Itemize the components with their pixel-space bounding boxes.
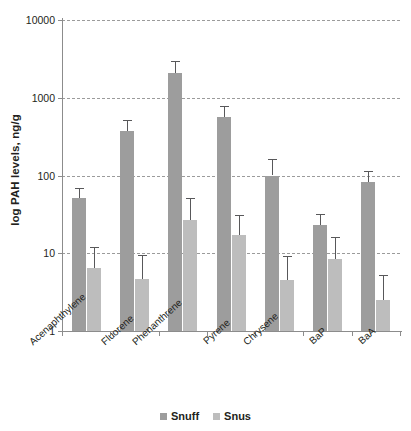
error-bar-cap xyxy=(283,256,292,257)
legend-label: Snuff xyxy=(171,410,199,422)
error-bar xyxy=(320,214,321,225)
error-bar-cap xyxy=(90,247,99,248)
x-axis-tick xyxy=(303,331,304,336)
error-bar-cap xyxy=(316,214,325,215)
y-axis-tick xyxy=(58,98,63,99)
bar-snuff-pyrene xyxy=(217,117,231,331)
error-bar xyxy=(335,237,336,258)
bar-snus-fluorene xyxy=(135,279,149,331)
error-bar-cap xyxy=(235,215,244,216)
y-axis-tick xyxy=(58,20,63,21)
y-axis-tick-label: 10 xyxy=(43,247,55,259)
y-axis-tick xyxy=(58,176,63,177)
error-bar-cap xyxy=(138,255,147,256)
legend-item-snus[interactable]: Snus xyxy=(213,410,251,422)
error-bar-cap xyxy=(364,171,373,172)
gridline xyxy=(62,176,400,177)
error-bar-cap xyxy=(186,198,195,199)
gridline xyxy=(62,20,400,21)
bar-snuff-acenaphthylene xyxy=(72,198,86,331)
bar-snuff-phenanthrene xyxy=(168,73,182,331)
bar-snus-pyrene xyxy=(232,235,246,331)
error-bar-cap xyxy=(220,106,229,107)
error-bar xyxy=(287,256,288,281)
error-bar-cap xyxy=(379,275,388,276)
error-bar-cap xyxy=(268,159,277,160)
legend-swatch-icon xyxy=(213,413,220,420)
error-bar xyxy=(272,159,273,176)
error-bar-cap xyxy=(331,237,340,238)
bar-snuff-bap xyxy=(313,225,327,331)
x-axis-tick xyxy=(159,331,160,336)
error-bar xyxy=(239,215,240,235)
y-axis-tick xyxy=(58,253,63,254)
y-axis-title: log PAH levels, ng/g xyxy=(4,0,26,340)
x-axis-tick xyxy=(207,331,208,336)
plot-area: 100001000100101 xyxy=(62,20,400,331)
error-bar xyxy=(127,120,128,131)
error-bar xyxy=(79,188,80,198)
x-axis-tick xyxy=(255,331,256,336)
error-bar xyxy=(383,275,384,300)
chart-legend: SnuffSnus xyxy=(0,410,411,422)
x-axis-tick xyxy=(62,331,63,336)
bar-snus-baa xyxy=(376,300,390,331)
error-bar xyxy=(142,255,143,279)
y-axis-title-text: log PAH levels, ng/g xyxy=(9,114,21,226)
bar-snuff-baa xyxy=(361,182,375,331)
gridline xyxy=(62,98,400,99)
error-bar xyxy=(190,198,191,220)
pah-levels-bar-chart: log PAH levels, ng/g 100001000100101 Ace… xyxy=(0,0,411,431)
error-bar-cap xyxy=(171,61,180,62)
legend-item-snuff[interactable]: Snuff xyxy=(160,410,199,422)
error-bar xyxy=(175,61,176,73)
error-bar xyxy=(94,247,95,268)
x-axis-tick xyxy=(110,331,111,336)
bar-snuff-chrysene xyxy=(265,176,279,332)
bar-snus-bap xyxy=(328,259,342,331)
bar-snus-acenaphthylene xyxy=(87,268,101,331)
error-bar-cap xyxy=(75,188,84,189)
x-axis-tick xyxy=(400,331,401,336)
error-bar xyxy=(224,106,225,117)
error-bar xyxy=(368,171,369,182)
bar-snus-phenanthrene xyxy=(183,220,197,331)
bar-snus-chrysene xyxy=(280,280,294,331)
y-axis-tick-label: 1000 xyxy=(32,92,55,104)
y-axis-tick-label: 100 xyxy=(37,170,55,182)
y-axis-tick-label: 1 xyxy=(49,325,55,337)
bar-snuff-fluorene xyxy=(120,131,134,331)
error-bar-cap xyxy=(123,120,132,121)
legend-label: Snus xyxy=(224,410,251,422)
y-axis-tick-label: 10000 xyxy=(26,14,55,26)
legend-swatch-icon xyxy=(160,413,167,420)
x-axis-tick xyxy=(352,331,353,336)
